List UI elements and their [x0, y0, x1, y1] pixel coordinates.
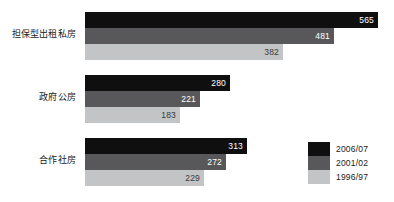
chart-legend: 2006/07 2001/02 1996/97: [308, 142, 392, 184]
category-label: 担保型出租私房: [0, 29, 76, 39]
bar-value-label: 272: [207, 154, 222, 170]
bar-value-label: 229: [185, 170, 200, 186]
plot-area: 担保型出租私房 565 481 382 政府公房: [0, 0, 394, 202]
bar-1996-97: 183: [85, 107, 180, 123]
bar-2006-07: 565: [85, 12, 378, 28]
legend-label: 2006/07: [336, 142, 368, 156]
bar-2006-07: 280: [85, 75, 230, 91]
bar-2001-02: 221: [85, 91, 200, 107]
bar-chart: 担保型出租私房 565 481 382 政府公房: [0, 0, 394, 202]
bar-value-label: 382: [264, 44, 279, 60]
bar-2001-02: 272: [85, 154, 226, 170]
legend-swatch-icon: [308, 142, 330, 156]
legend-item-1996-97: 1996/97: [308, 170, 392, 184]
legend-swatch-icon: [308, 156, 330, 170]
bar-value-label: 183: [161, 107, 176, 123]
bar-2001-02: 481: [85, 28, 334, 44]
legend-label: 1996/97: [336, 170, 368, 184]
legend-label: 2001/02: [336, 156, 368, 170]
bar-value-label: 565: [359, 12, 374, 28]
bar-value-label: 313: [228, 138, 243, 154]
legend-item-2001-02: 2001/02: [308, 156, 392, 170]
category-label: 合作社房: [0, 155, 76, 165]
bar-value-label: 221: [181, 91, 196, 107]
legend-item-2006-07: 2006/07: [308, 142, 392, 156]
category-label: 政府公房: [0, 92, 76, 102]
bar-2006-07: 313: [85, 138, 247, 154]
bar-value-label: 481: [315, 28, 330, 44]
bar-group: 担保型出租私房 565 481 382: [0, 12, 394, 60]
bar-1996-97: 229: [85, 170, 204, 186]
bar-group: 政府公房 280 221 183: [0, 75, 394, 123]
legend-swatch-icon: [308, 170, 330, 184]
bar-value-label: 280: [211, 75, 226, 91]
bar-1996-97: 382: [85, 44, 283, 60]
